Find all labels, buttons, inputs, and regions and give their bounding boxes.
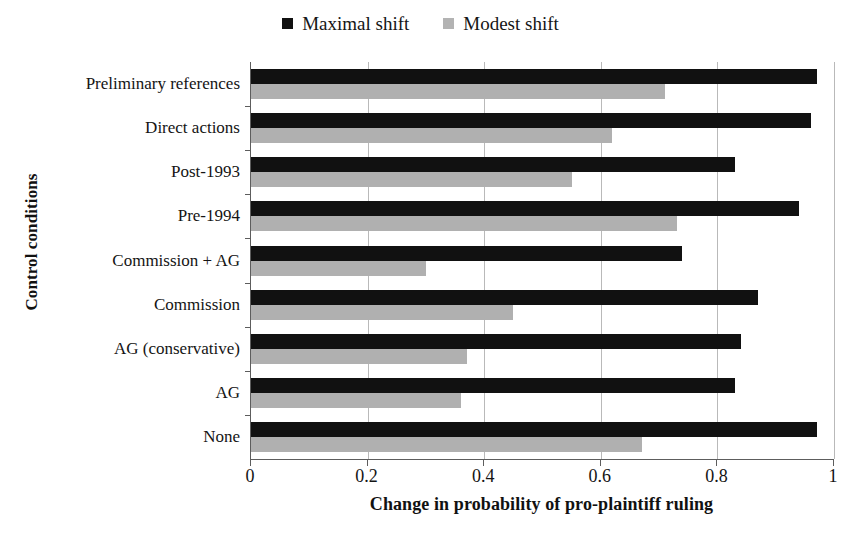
x-axis-tick-label: 0	[246, 466, 255, 487]
x-axis-tick-label: 0.2	[355, 466, 378, 487]
bar-modest-shift	[251, 437, 642, 452]
y-axis-tick-label: Commission	[24, 295, 240, 315]
bar-modest-shift	[251, 216, 677, 231]
x-axis-title: Change in probability of pro-plaintiff r…	[250, 494, 833, 515]
y-axis-tick-label: AG (conservative)	[24, 339, 240, 359]
plot-area	[250, 62, 834, 460]
bar-maximal-shift	[251, 113, 811, 128]
legend-swatch-modest-shift-icon	[443, 18, 454, 29]
y-axis-tick-label: Direct actions	[24, 118, 240, 138]
legend-label-modest-shift: Modest shift	[463, 14, 559, 33]
bar-maximal-shift	[251, 422, 817, 437]
y-axis-tickmark	[245, 283, 251, 284]
bar-maximal-shift	[251, 201, 799, 216]
bar-modest-shift	[251, 261, 426, 276]
bar-maximal-shift	[251, 378, 735, 393]
y-axis-tickmark	[245, 194, 251, 195]
y-axis-tick-label: AG	[24, 383, 240, 403]
x-axis-tick-label: 1	[829, 466, 838, 487]
y-axis-tickmark	[245, 238, 251, 239]
bar-modest-shift	[251, 393, 461, 408]
y-axis-tick-label: Post-1993	[24, 162, 240, 182]
legend-swatch-maximal-shift-icon	[282, 18, 293, 29]
bar-maximal-shift	[251, 246, 682, 261]
bar-modest-shift	[251, 349, 467, 364]
bar-maximal-shift	[251, 157, 735, 172]
bar-chart: Maximal shift Modest shift Control condi…	[0, 0, 841, 547]
x-axis-tick-label: 0.8	[705, 466, 728, 487]
y-axis-tick-label: Preliminary references	[24, 74, 240, 94]
x-axis-tick-label: 0.6	[589, 466, 612, 487]
y-axis-tickmark	[245, 327, 251, 328]
chart-legend: Maximal shift Modest shift	[0, 14, 841, 33]
bar-modest-shift	[251, 172, 572, 187]
bar-modest-shift	[251, 84, 665, 99]
x-axis-ticks: 00.20.40.60.81	[250, 460, 833, 490]
bar-maximal-shift	[251, 290, 758, 305]
y-axis-tick-label: Commission + AG	[24, 251, 240, 271]
gridline	[834, 62, 835, 459]
y-axis-tickmark	[245, 150, 251, 151]
legend-label-maximal-shift: Maximal shift	[302, 14, 409, 33]
bar-modest-shift	[251, 305, 513, 320]
y-axis-tick-labels: Preliminary referencesDirect actionsPost…	[30, 62, 246, 459]
y-axis-tick-label: None	[24, 427, 240, 447]
legend-entry-modest-shift: Modest shift	[443, 14, 559, 33]
bar-modest-shift	[251, 128, 612, 143]
bar-maximal-shift	[251, 334, 741, 349]
y-axis-tickmark	[245, 371, 251, 372]
y-axis-tickmark	[245, 415, 251, 416]
y-axis-tickmark	[245, 106, 251, 107]
legend-entry-maximal-shift: Maximal shift	[282, 14, 409, 33]
x-axis-tick-label: 0.4	[472, 466, 495, 487]
bar-maximal-shift	[251, 69, 817, 84]
y-axis-tick-label: Pre-1994	[24, 206, 240, 226]
